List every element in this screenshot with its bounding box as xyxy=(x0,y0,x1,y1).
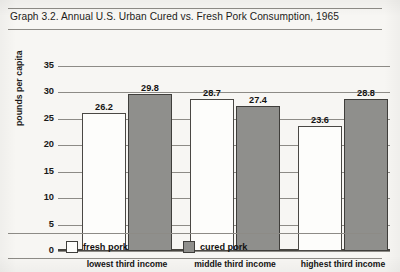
bar-group-lowest: 26.2 29.8 xyxy=(76,66,178,251)
bar-value-fresh-middle: 28.7 xyxy=(203,88,221,98)
legend-item-cured[interactable]: cured pork xyxy=(183,241,247,253)
y-tick-5: 5 xyxy=(28,219,54,229)
legend-label-fresh: fresh pork xyxy=(83,242,128,252)
bar-value-cured-middle: 27.4 xyxy=(249,95,267,105)
y-tick-15: 15 xyxy=(28,166,54,176)
y-axis-title: pounds per capita xyxy=(14,50,24,126)
bar-group-highest: 23.6 28.8 xyxy=(292,66,394,251)
bar-fresh-lowest[interactable]: 26.2 xyxy=(82,113,126,252)
bar-cured-middle[interactable]: 27.4 xyxy=(236,106,280,251)
y-tick-35: 35 xyxy=(28,60,54,70)
bar-value-cured-highest: 28.8 xyxy=(357,88,375,98)
chart-title-area: Graph 3.2. Annual U.S. Urban Cured vs. F… xyxy=(8,8,382,28)
bar-cured-lowest[interactable]: 29.8 xyxy=(128,94,172,252)
legend-label-cured: cured pork xyxy=(200,242,247,252)
chart-title: Graph 3.2. Annual U.S. Urban Cured vs. F… xyxy=(10,11,339,22)
bar-value-fresh-lowest: 26.2 xyxy=(95,102,113,112)
y-tick-10: 10 xyxy=(28,192,54,202)
chart-legend: fresh pork cured pork xyxy=(8,240,382,262)
bar-value-cured-lowest: 29.8 xyxy=(141,83,159,93)
legend-swatch-fresh-icon xyxy=(66,241,78,253)
legend-divider-bottom xyxy=(8,258,382,259)
bar-group-middle: 28.7 27.4 xyxy=(184,66,286,251)
title-divider xyxy=(8,8,382,9)
bar-value-fresh-highest: 23.6 xyxy=(311,115,329,125)
bar-fresh-middle[interactable]: 28.7 xyxy=(190,99,234,251)
bar-cured-highest[interactable]: 28.8 xyxy=(344,99,388,251)
y-tick-30: 30 xyxy=(28,86,54,96)
plot-area: 35 30 25 20 15 10 5 0 xyxy=(58,66,390,251)
plot-frame: pounds per capita 35 30 25 20 15 10 5 xyxy=(8,29,382,229)
y-tick-25: 25 xyxy=(28,113,54,123)
legend-divider-top xyxy=(8,233,382,234)
legend-item-fresh[interactable]: fresh pork xyxy=(66,241,128,253)
y-tick-20: 20 xyxy=(28,139,54,149)
legend-swatch-cured-icon xyxy=(183,241,195,253)
chart-figure: Graph 3.2. Annual U.S. Urban Cured vs. F… xyxy=(0,0,400,272)
